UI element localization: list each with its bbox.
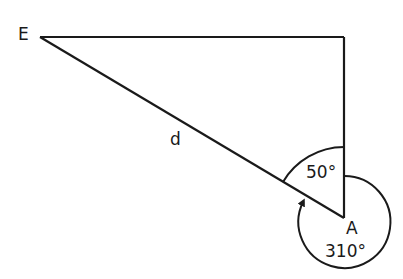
angle-310-label: 310° [325,241,366,261]
point-a-label: A [346,218,358,238]
angle-50-label: 50° [306,162,336,182]
side-d-label: d [170,129,181,149]
line-d [40,37,344,218]
bearing-triangle-diagram: E d 50° A 310° [0,0,403,279]
point-e-label: E [18,24,29,44]
